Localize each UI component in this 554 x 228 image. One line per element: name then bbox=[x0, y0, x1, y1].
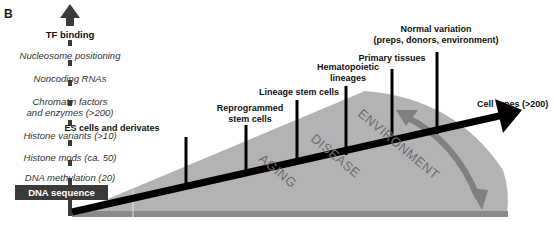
label-hematopoietic: Hematopoieticlineages bbox=[317, 62, 379, 84]
stack-item-histone-mods: Histone mods (ca. 50) bbox=[24, 152, 117, 163]
stack-top-label: TF binding bbox=[46, 29, 95, 40]
label-es-cells-text: ES cells and derivates bbox=[64, 123, 159, 133]
panel-label: B bbox=[4, 7, 13, 21]
label-reprogrammed: Reprogrammedstem cells bbox=[217, 103, 284, 125]
stack-item-chromatin-1: Chromatin factors bbox=[33, 96, 108, 107]
label-es-cells: ES cells and derivates bbox=[64, 123, 159, 134]
label-lineage-stem: Lineage stem cells bbox=[259, 87, 339, 98]
stack-item-chromatin-2: and enzymes (>200) bbox=[27, 107, 114, 118]
dna-sequence-box: DNA sequence bbox=[15, 185, 108, 200]
label-lineage-stem-text: Lineage stem cells bbox=[259, 87, 339, 97]
label-hematopoietic-line2: lineages bbox=[317, 73, 379, 84]
axis-label-cell-types: Cell types (>200) bbox=[477, 99, 548, 109]
label-reprogrammed-line1: Reprogrammed bbox=[217, 103, 284, 114]
label-reprogrammed-line2: stem cells bbox=[217, 114, 284, 125]
stack-item-dna-methylation: DNA methylation (20) bbox=[25, 172, 115, 183]
stack-item-noncoding: Noncoding RNAs bbox=[34, 73, 107, 84]
up-arrow-icon bbox=[60, 4, 80, 26]
bottom-band bbox=[72, 211, 508, 217]
stack-item-nucleosome: Nucleosome positioning bbox=[20, 50, 121, 61]
label-primary-tissues-text: Primary tissues bbox=[358, 53, 425, 63]
label-normal-variation-line1: Normal variation bbox=[373, 24, 498, 35]
epigenome-diagram: AGING DISEASE ENVIRONMENT B TF binding N… bbox=[0, 0, 554, 228]
label-normal-variation-line2: (preps, donors, environment) bbox=[373, 35, 498, 46]
label-primary-tissues: Primary tissues bbox=[358, 53, 425, 64]
label-normal-variation: Normal variation(preps, donors, environm… bbox=[373, 24, 498, 46]
